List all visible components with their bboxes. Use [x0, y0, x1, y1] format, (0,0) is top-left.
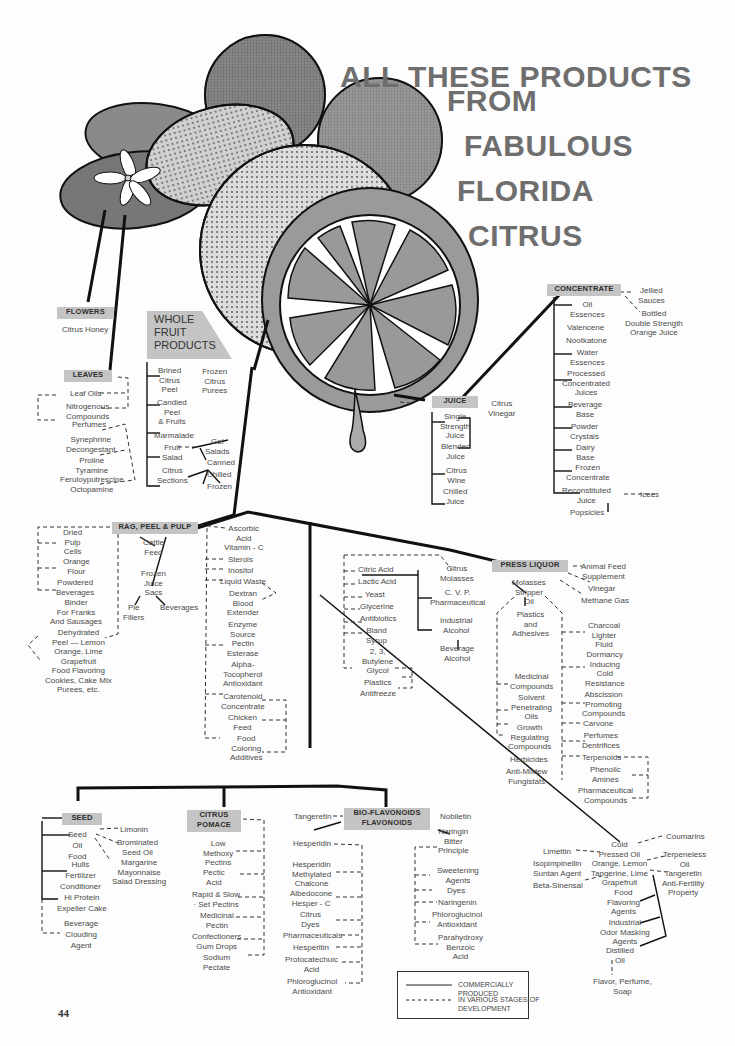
rpp-middle-item: Beverages [160, 603, 198, 613]
concentrate-item: Powder Crystals [570, 422, 599, 441]
rpp-middle-item: Cattle Feed [143, 538, 164, 557]
leaves-item: Leaf Oils [70, 389, 102, 399]
concentrate-item: Oil Essences [570, 300, 605, 319]
bf-left-item: Phloroglucinol Antioxidant [287, 977, 337, 996]
whole-fruit-item: Frozen Citrus Purees [202, 367, 227, 396]
pl-right-item: Charcoal Lighter Fluid [588, 621, 620, 650]
poster-page: ALL THESE PRODUCTS FROM FABULOUS FLORIDA… [0, 0, 735, 1046]
pl-right-item: Methane Gas [581, 596, 629, 606]
seed-item: Beverage Clouding Agent [64, 918, 98, 951]
seed-item: Seed Oil Food [68, 829, 87, 862]
concentrate-item: Nootkatone [566, 336, 607, 346]
seed-item: Margarine Mayonnaise Salad Dressing [112, 858, 166, 887]
bf-left-item: Citrus Dyes [300, 910, 321, 929]
pl-right-item: Dormancy Inducing Cold Resistance [585, 650, 625, 688]
rpp-middle-item: Pie Fillers [123, 603, 144, 622]
whole-fruit-item: Fruit Salad [162, 443, 182, 462]
rpp-right-item: Ascorbic Acid Vitamin - C [224, 524, 263, 553]
cold-pressed-oil: Cold Pressed Oil Orange, Lemon Tangerine… [591, 840, 648, 888]
pl-right-item: Perfumes Dentrifices [582, 731, 620, 750]
title-line-4: FLORIDA [457, 174, 594, 208]
cpo-below-item: Flavor, Perfume, Soap [593, 977, 652, 996]
whole-fruit-item: Gel Salads [205, 437, 229, 456]
pl-left-item: Yeast [365, 590, 385, 600]
concentrate-item: Jellied Sauces [638, 286, 665, 305]
citrus-illustration [56, 35, 478, 452]
cpo-below-item: Food Flavoring Agents [607, 888, 640, 917]
pl-right-item: Pharmaceutical Compounds [578, 786, 633, 805]
rpp-left-item: Powdered Beverages [56, 578, 94, 597]
bf-left-item: Protocatechuic Acid [285, 955, 338, 974]
page-number: 44 [58, 1007, 69, 1019]
pl-middle-item: Industrial Alcohol [440, 616, 472, 635]
leaves-item: Nitrogenous Compounds [66, 402, 109, 421]
rpp-right-item: Sterols [228, 555, 253, 565]
pl-left-item: Lactic Acid [358, 577, 396, 587]
title-line-3: FABULOUS [464, 129, 633, 163]
pl-right-item: Vinegar [588, 584, 615, 594]
leaves-box: LEAVES [64, 370, 112, 382]
legend-dashed-label: IN VARIOUS STAGES OF DEVELOPMENT [458, 995, 539, 1013]
pomace-item: Sodium Pectate [203, 953, 230, 972]
pomace-item: Medicinal Pectin [200, 911, 234, 930]
bf-right-item: Naringin Bitter Principle [438, 827, 469, 856]
rpp-right-item: Enzyme Source Pectin Esterase [227, 620, 259, 658]
rpp-left-item: Binder For Franks And Sausages [50, 598, 102, 627]
concentrate-item: Processed Concentrated Juices [562, 369, 610, 398]
bf-right-item: Nobiletin [440, 812, 471, 822]
whole-fruit-item: Chilled [207, 470, 231, 480]
seed-item: Hulls Fertilizer Conditioner [60, 859, 101, 892]
whole-fruit-item: Marmalade [154, 431, 194, 441]
juice-item: Chilled Juice [443, 487, 467, 506]
rpp-right-item: Liquid Waste [220, 577, 266, 587]
pl-left-item: Citric Acid [358, 565, 394, 575]
rpp-right-item: Carotenoid Concentrate [221, 692, 265, 711]
concentrate-item: Reconstituted Juice [562, 486, 611, 505]
citrus-pomace-box: CITRUS POMACE [187, 810, 241, 832]
bf-left-item: Tangeretin [294, 812, 331, 822]
legend: COMMERCIALLY PRODUCED IN VARIOUS STAGES … [397, 971, 529, 1019]
seed-item: Limonin [120, 825, 148, 835]
juice-item: Citrus Vinegar [488, 399, 515, 418]
bf-left-item: Pharmaceuticals [283, 931, 342, 941]
pomace-item: Rapid & Slow · Set Pectins [192, 890, 240, 909]
pl-stripper-item: Herbicides [510, 755, 548, 765]
whole-fruit-item: Frozen [207, 482, 232, 492]
cpo-left-item: Isopimpinellin Suntan Agent [533, 859, 581, 878]
pl-left-item: 2, 3, Butylene Glycol [362, 647, 393, 676]
bf-right-item: Dyes [447, 886, 465, 896]
pl-middle-item: Beverage Alcohol [440, 644, 474, 663]
pl-right-item: Carvone [583, 719, 613, 729]
concentrate-item: Valencene [567, 323, 604, 333]
pl-middle-item: C. V. P. Pharmaceutical [430, 588, 485, 607]
bf-right-item: Naringenin [438, 898, 477, 908]
rpp-middle-item: Frozen Juice Sacs [141, 569, 166, 598]
flowers-box: FLOWERS [57, 307, 114, 319]
rag-peel-pulp-box: RAG, PEEL & PULP [112, 522, 198, 534]
press-liquor-box: PRESS LIQUOR [492, 560, 568, 572]
juice-box: JUICE [432, 396, 478, 408]
rpp-left-item: Orange Flour [63, 557, 90, 576]
juice-item: Single Strength Juice [440, 412, 470, 441]
title-line-2: FROM [447, 84, 537, 118]
pl-right-item: Phenolic Amines [590, 765, 621, 784]
bf-right-item: Sweetening Agents [437, 866, 479, 885]
concentrate-item: Dairy Base [576, 443, 595, 462]
pl-stripper-item: Solvent Penetrating Oils [511, 693, 552, 722]
rpp-left-item: Dried Pulp Cells [63, 528, 82, 557]
concentrate-box: CONCENTRATE [547, 284, 621, 296]
concentrate-item: Beverage Base [568, 400, 602, 419]
cpo-below-item: Distilled Oil [606, 946, 634, 965]
pl-left-item: Plastics [364, 678, 392, 688]
concentrate-item: Water Essences [570, 348, 605, 367]
pomace-item: Confectioners Gum Drops [192, 932, 241, 951]
pl-stripper-item: Anti-Mildew Fungistats [506, 767, 547, 786]
whole-fruit-item: Citrus Sections [157, 466, 188, 485]
bf-right-item: Parahydroxy Benzoic Acid [438, 933, 483, 962]
concentrate-item: Popsicles [570, 508, 604, 518]
pl-right-item: Abscission Promoting Compounds [582, 690, 625, 719]
pl-stripper-item: Growth Regulating Compounds [508, 723, 551, 752]
bf-left-item: Albedocone Hesper - C [290, 889, 332, 908]
bioflavonoids-box: BIO-FLAVONOIDS FLAVONOIDS [344, 808, 430, 830]
whole-fruit-item: Canned [207, 458, 235, 468]
